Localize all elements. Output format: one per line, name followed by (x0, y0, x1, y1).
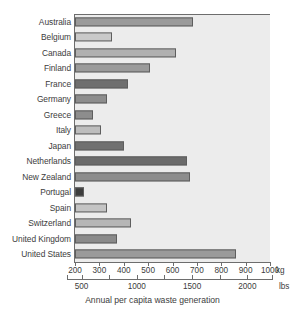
bar (75, 188, 84, 197)
bar (75, 95, 107, 104)
bar (75, 219, 131, 228)
bar-row: Belgium (0, 30, 305, 46)
lbs-axis-tick (220, 275, 221, 279)
category-label: Germany (37, 95, 71, 104)
lbs-axis-right-cap (272, 275, 273, 279)
category-label: Australia (39, 17, 71, 26)
category-label: Spain (50, 203, 71, 212)
lbs-axis-tick (164, 275, 165, 279)
lbs-axis-tick (137, 275, 138, 279)
bar (75, 250, 236, 259)
kg-tick-label: 900 (239, 266, 253, 276)
category-label: Italy (56, 126, 71, 135)
category-label: United States (21, 250, 71, 259)
category-label: United Kingdom (12, 234, 71, 243)
bar (75, 203, 107, 212)
lbs-tick-label: 1500 (183, 281, 201, 292)
bar-row: Japan (0, 138, 305, 154)
kg-tick-label: 200 (68, 266, 82, 276)
bar-row: Switzerland (0, 216, 305, 232)
category-label: Japan (48, 141, 71, 150)
kg-unit-label: kg (276, 266, 285, 276)
bar (75, 17, 193, 26)
lbs-tick-label: 2000 (238, 281, 256, 292)
category-label: Belgium (41, 33, 71, 42)
bar-row: Netherlands (0, 154, 305, 170)
lbs-tick-label: 1000 (128, 281, 146, 292)
lbs-unit-label: lbs (279, 281, 289, 292)
bar (75, 64, 150, 73)
lbs-tick-label: 500 (75, 281, 89, 292)
bar-row: Canada (0, 45, 305, 61)
waste-generation-bar-chart: AustraliaBelgiumCanadaFinlandFranceGerma… (0, 0, 305, 315)
lbs-axis-tick (247, 275, 248, 279)
lbs-axis-tick-labels: 500100015002000 (0, 281, 305, 293)
category-label: France (45, 79, 71, 88)
bar-rows: AustraliaBelgiumCanadaFinlandFranceGerma… (0, 14, 305, 262)
bar (75, 33, 112, 42)
bar-row: Australia (0, 14, 305, 30)
bar-row: France (0, 76, 305, 92)
kg-tick-label: 800 (214, 266, 228, 276)
lbs-axis-tick (109, 275, 110, 279)
lbs-axis-left-cap (67, 275, 68, 279)
category-label: Greece (44, 110, 71, 119)
axis-title: Annual per capita waste generation (0, 295, 305, 306)
kg-tick-label: 600 (166, 266, 180, 276)
category-label: Canada (42, 48, 71, 57)
bar (75, 48, 176, 57)
bar-row: Finland (0, 61, 305, 77)
kg-tick-label: 300 (93, 266, 107, 276)
bar (75, 172, 190, 181)
lbs-axis-tick (82, 275, 83, 279)
bar (75, 110, 93, 119)
category-label: New Zealand (22, 172, 71, 181)
bar-row: New Zealand (0, 169, 305, 185)
category-label: Netherlands (26, 157, 71, 166)
kg-tick-label: 400 (117, 266, 131, 276)
bar-row: Italy (0, 123, 305, 139)
bar-row: United States (0, 247, 305, 263)
bar (75, 79, 128, 88)
category-label: Portugal (40, 188, 71, 197)
bar (75, 141, 124, 150)
bar-row: Spain (0, 200, 305, 216)
kg-axis-line (74, 262, 270, 263)
bar-row: United Kingdom (0, 231, 305, 247)
category-label: Switzerland (28, 219, 71, 228)
bar (75, 234, 117, 243)
bar-row: Greece (0, 107, 305, 123)
lbs-axis-tick (192, 275, 193, 279)
bar (75, 126, 101, 135)
bar-row: Germany (0, 92, 305, 108)
bar-row: Portugal (0, 185, 305, 201)
kg-tick-label: 500 (141, 266, 155, 276)
kg-axis-tick-labels: 2003004005006007008009001000 (0, 266, 305, 277)
category-label: Finland (44, 64, 71, 73)
bar (75, 157, 187, 166)
lbs-axis-line (67, 279, 273, 280)
